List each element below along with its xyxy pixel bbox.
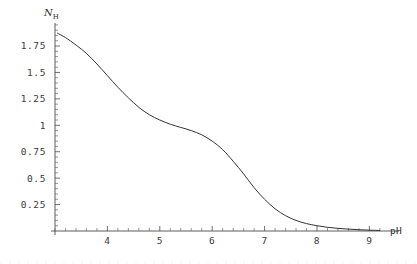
y-tick-label: 1.25	[21, 93, 46, 104]
y-tick-label: 0.5	[27, 173, 46, 184]
axes-group	[51, 23, 399, 235]
ticks-group	[55, 25, 380, 231]
x-tick-label: 5	[157, 235, 163, 246]
y-tick-label: 1	[40, 120, 46, 131]
x-tick-label: 7	[261, 235, 267, 246]
plot-canvas: 4567890.250.50.7511.251.51.75 NH pH	[0, 0, 417, 264]
y-tick-label: 1.75	[21, 40, 46, 51]
x-tick-label: 8	[314, 235, 320, 246]
y-axis-subscript: H	[53, 13, 59, 21]
x-axis-title: pH	[390, 225, 402, 236]
y-tick-label: 0.75	[21, 146, 46, 157]
y-axis-title: NH	[43, 7, 59, 21]
data-curve-nh	[58, 33, 380, 230]
y-tick-label: 0.25	[21, 199, 46, 210]
x-tick-label: 4	[104, 235, 110, 246]
tick-labels-group: 4567890.250.50.7511.251.51.75	[21, 40, 373, 246]
y-tick-label: 1.5	[27, 67, 46, 78]
x-tick-label: 6	[209, 235, 215, 246]
plot-figure: 4567890.250.50.7511.251.51.75 NH pH	[0, 0, 417, 264]
x-tick-label: 9	[366, 235, 372, 246]
